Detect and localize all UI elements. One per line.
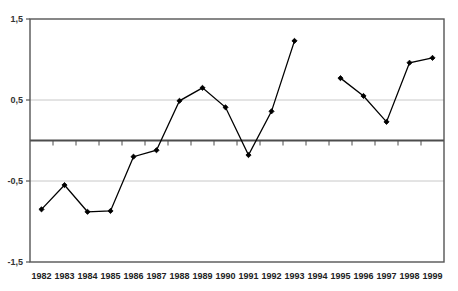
chart-container: 1,50,5-0,5-1,5 1982198319841985198619871… xyxy=(0,0,458,291)
x-axis-label: 1996 xyxy=(353,271,373,281)
x-axis-label: 1999 xyxy=(422,271,442,281)
x-axis-label: 1992 xyxy=(261,271,281,281)
y-axis-label: -1,5 xyxy=(7,257,23,267)
x-axis-label: 1994 xyxy=(307,271,327,281)
x-axis-label: 1982 xyxy=(31,271,51,281)
x-axis-label: 1998 xyxy=(399,271,419,281)
x-axis-label: 1995 xyxy=(330,271,350,281)
y-axis-label: 0,5 xyxy=(10,95,23,105)
x-axis-label: 1997 xyxy=(376,271,396,281)
x-axis-label: 1987 xyxy=(146,271,166,281)
x-axis-label: 1983 xyxy=(54,271,74,281)
x-axis-labels: 1982198319841985198619871988198919901991… xyxy=(31,271,442,281)
x-axis-label: 1990 xyxy=(215,271,235,281)
x-axis-label: 1988 xyxy=(169,271,189,281)
y-axis-labels: 1,50,5-0,5-1,5 xyxy=(7,14,23,267)
x-axis-label: 1984 xyxy=(77,271,97,281)
x-axis-label: 1993 xyxy=(284,271,304,281)
x-axis-label: 1985 xyxy=(100,271,120,281)
y-axis-label: 1,5 xyxy=(10,14,23,24)
x-axis-label: 1986 xyxy=(123,271,143,281)
y-axis-label: -0,5 xyxy=(7,176,23,186)
x-axis-label: 1989 xyxy=(192,271,212,281)
x-axis-label: 1991 xyxy=(238,271,258,281)
line-chart: 1,50,5-0,5-1,5 1982198319841985198619871… xyxy=(0,0,458,291)
